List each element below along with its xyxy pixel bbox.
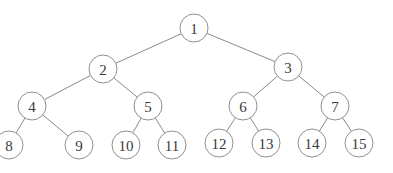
tree-node-10: 10: [112, 131, 140, 159]
edge-2-5: [114, 78, 137, 97]
tree-node-5: 5: [134, 92, 162, 120]
edge-1-2: [116, 34, 181, 63]
tree-node-8: 8: [0, 131, 23, 159]
edge-4-9: [43, 115, 68, 136]
node-label: 13: [259, 136, 274, 152]
node-label: 11: [165, 138, 179, 154]
edge-5-10: [133, 118, 141, 133]
tree-nodes: 123456789101112131415: [0, 14, 373, 159]
node-label: 2: [99, 62, 107, 78]
node-label: 8: [5, 138, 13, 154]
edge-5-11: [155, 118, 164, 133]
tree-node-7: 7: [321, 92, 349, 120]
tree-node-9: 9: [65, 131, 93, 159]
tree-node-3: 3: [274, 53, 302, 81]
tree-node-2: 2: [89, 55, 117, 83]
node-label: 7: [331, 99, 339, 115]
edge-1-3: [207, 33, 275, 61]
tree-node-14: 14: [298, 129, 326, 157]
tree-node-12: 12: [205, 129, 233, 157]
edge-7-15: [343, 118, 352, 132]
edge-4-8: [16, 118, 25, 133]
node-label: 10: [119, 138, 134, 154]
node-label: 15: [352, 136, 367, 152]
node-label: 6: [239, 99, 247, 115]
node-label: 9: [75, 138, 83, 154]
edge-6-12: [227, 118, 236, 132]
tree-node-4: 4: [18, 92, 46, 120]
node-label: 12: [212, 136, 227, 152]
tree-node-1: 1: [180, 14, 208, 42]
edge-2-4: [44, 75, 90, 99]
node-label: 5: [144, 99, 152, 115]
node-label: 1: [190, 21, 198, 37]
edge-3-7: [299, 76, 324, 97]
node-label: 4: [28, 99, 36, 115]
binary-tree-diagram: 123456789101112131415: [0, 0, 393, 173]
tree-node-15: 15: [345, 129, 373, 157]
tree-node-6: 6: [229, 92, 257, 120]
tree-node-13: 13: [252, 129, 280, 157]
tree-edges: [16, 33, 351, 136]
edge-7-14: [319, 118, 327, 131]
node-label: 3: [284, 60, 292, 76]
node-label: 14: [305, 136, 321, 152]
tree-node-11: 11: [158, 131, 186, 159]
edge-3-6: [254, 76, 278, 97]
edge-6-13: [250, 118, 258, 131]
